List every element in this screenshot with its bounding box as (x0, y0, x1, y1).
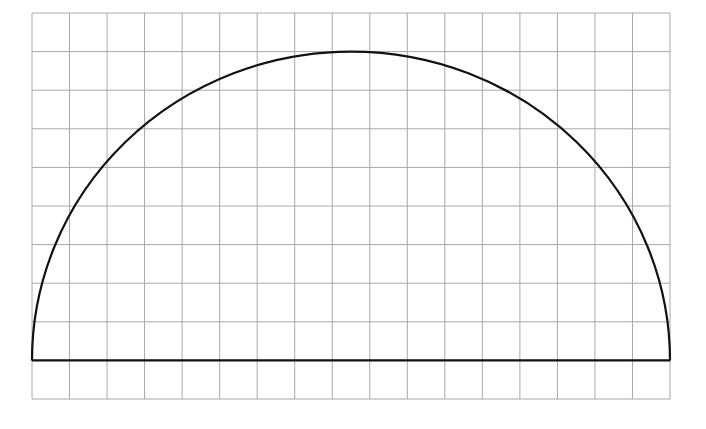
semicircle-grid-diagram (0, 0, 706, 429)
grid (32, 13, 670, 399)
